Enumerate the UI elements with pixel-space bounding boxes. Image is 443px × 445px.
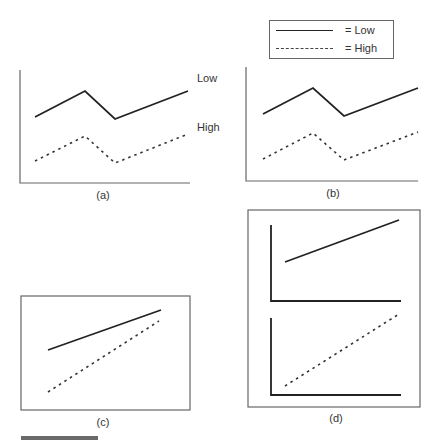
figure-canvas bbox=[0, 0, 443, 445]
legend-item-high: = High bbox=[270, 42, 393, 56]
panel-a-axes bbox=[20, 70, 190, 183]
panel-a-high-label: High bbox=[197, 122, 220, 133]
panel-d-top-axes bbox=[271, 225, 401, 301]
legend: = Low = High bbox=[269, 20, 394, 59]
panel-c-high-line bbox=[48, 321, 159, 392]
panel-d-bottom-axes bbox=[271, 318, 401, 395]
legend-label-high: = High bbox=[345, 42, 377, 54]
panel-c-frame bbox=[21, 296, 190, 410]
solid-line-swatch-icon bbox=[276, 30, 333, 31]
panel-b-low-line bbox=[263, 88, 418, 116]
dashed-line-swatch-icon bbox=[276, 48, 333, 49]
panel-b-axes bbox=[246, 67, 418, 181]
panel-a-chart bbox=[20, 70, 190, 183]
legend-label-low: = Low bbox=[345, 24, 375, 36]
panel-d-chart bbox=[248, 210, 420, 407]
panel-d-caption: (d) bbox=[329, 413, 342, 424]
panel-b-chart bbox=[246, 67, 418, 181]
panel-b-high-line bbox=[263, 132, 418, 160]
panel-a-low-label: Low bbox=[197, 73, 217, 84]
panel-a-high-line bbox=[35, 134, 188, 163]
panel-a-caption: (a) bbox=[96, 190, 109, 201]
legend-item-low: = Low bbox=[270, 24, 393, 38]
panel-a-low-line bbox=[35, 91, 188, 119]
panel-b-caption: (b) bbox=[326, 188, 339, 199]
decorative-bar bbox=[21, 436, 98, 440]
panel-d-high-line bbox=[285, 314, 399, 386]
panel-c-chart bbox=[21, 296, 190, 410]
panel-d-frame bbox=[248, 210, 420, 407]
panel-c-caption: (c) bbox=[97, 417, 110, 428]
panel-c-low-line bbox=[48, 310, 161, 350]
panel-d-low-line bbox=[285, 220, 399, 262]
